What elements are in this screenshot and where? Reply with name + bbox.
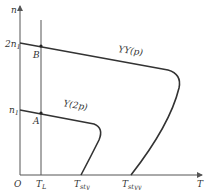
x-tick-tl: TL (36, 179, 46, 190)
y-axis-label: n (11, 5, 17, 15)
curve-yy-p (20, 43, 180, 175)
y-tick-2n1: 2n1 (4, 39, 21, 51)
point-b-marker (39, 44, 42, 47)
curve-y-2p-label: Y(2p) (63, 98, 89, 112)
point-a-label: A (32, 116, 40, 126)
speed-temperature-diagram: n T O 2n1 n1 TL Tsty Tstyy B A YY(p) Y(2… (0, 0, 206, 190)
point-b-label: B (32, 50, 40, 60)
y-tick-n1: n1 (9, 105, 19, 117)
origin-label: O (14, 179, 22, 189)
x-axis-label: T (197, 179, 204, 189)
x-tick-tstyy: Tstyy (122, 179, 142, 190)
point-a-marker (39, 111, 42, 114)
curve-yy-p-label: YY(p) (118, 44, 144, 57)
x-tick-tsty: Tsty (74, 179, 90, 190)
